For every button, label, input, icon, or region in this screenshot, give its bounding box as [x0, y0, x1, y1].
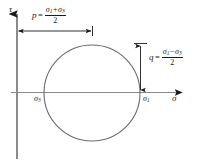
- p-numerator: σ1+σ3: [45, 6, 66, 15]
- p-denominator: 2: [53, 16, 57, 25]
- sigma-3-label: σ3: [34, 95, 41, 104]
- q-variable: q: [149, 52, 154, 62]
- q-denominator: 2: [170, 58, 174, 67]
- sigma-1-label: σ1: [143, 95, 150, 104]
- q-equation: q = σ1−σ3 2: [149, 48, 183, 67]
- q-num-right-subscript: 3: [179, 50, 182, 56]
- mohr-circle-figure: τ σ σ3 σ1 p = σ1+σ3 2 q = σ1−σ3 2: [0, 0, 203, 161]
- q-equals-sign: =: [155, 52, 160, 62]
- q-numerator: σ1−σ3: [162, 48, 183, 57]
- p-equals-sign: =: [38, 10, 43, 20]
- p-variable: p: [32, 10, 37, 20]
- sigma-1-subscript: 1: [147, 97, 150, 103]
- p-equation: p = σ1+σ3 2: [32, 6, 66, 25]
- sigma-3-subscript: 3: [38, 97, 41, 103]
- p-num-right-subscript: 3: [62, 8, 65, 14]
- p-fraction: σ1+σ3 2: [45, 6, 66, 25]
- q-fraction: σ1−σ3 2: [162, 48, 183, 67]
- tau-axis-label: τ: [9, 5, 12, 14]
- diagram-canvas: [0, 0, 203, 161]
- sigma-axis-label: σ: [172, 94, 176, 103]
